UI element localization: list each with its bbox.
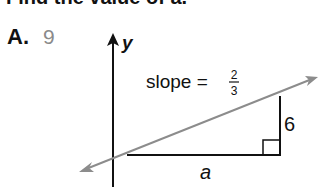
slope-triangle: [127, 96, 281, 156]
rise-label: 6: [284, 113, 295, 135]
slope-label: slope =: [146, 71, 208, 92]
run-label: a: [200, 161, 211, 183]
y-axis: [107, 33, 119, 187]
y-axis-label: y: [121, 32, 134, 53]
slope-denominator: 3: [231, 84, 238, 98]
slope-diagram: y slope = 2 3 6 a: [0, 0, 318, 187]
slope-numerator: 2: [231, 68, 238, 82]
right-angle-marker: [263, 140, 280, 155]
